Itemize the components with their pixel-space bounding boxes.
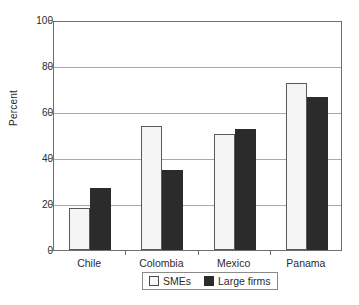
chart-legend: SMEsLarge firms — [142, 272, 278, 290]
y-axis-tick-label: 80 — [7, 60, 53, 73]
bar-chart-figure: Percent 100806040200 ChileColombiaMexico… — [0, 0, 359, 305]
legend-swatch-icon — [149, 276, 159, 286]
gridline-80 — [54, 67, 341, 68]
y-axis-tick-label: 60 — [7, 106, 53, 119]
bar-mexico-large — [235, 129, 256, 250]
bar-chile-smes — [69, 208, 90, 250]
y-axis-tick-label: 40 — [7, 152, 53, 165]
y-axis-tick-label: 100 — [7, 14, 53, 27]
legend-label: Large firms — [218, 275, 271, 287]
legend-swatch-icon — [204, 276, 214, 286]
legend-item-smes: SMEs — [149, 275, 191, 287]
bar-panama-large — [307, 97, 328, 250]
x-axis-tick-mark — [198, 251, 199, 255]
bar-panama-smes — [286, 83, 307, 250]
bar-mexico-smes — [214, 134, 235, 250]
x-axis-category-label: Panama — [246, 256, 359, 270]
bar-chile-large — [90, 188, 111, 250]
x-axis-tick-mark — [125, 251, 126, 255]
legend-label: SMEs — [163, 275, 191, 287]
x-axis-tick-mark — [270, 251, 271, 255]
y-axis-tick-label: 20 — [7, 198, 53, 211]
bar-colombia-smes — [141, 126, 162, 250]
bar-colombia-large — [162, 170, 183, 251]
plot-area — [53, 21, 342, 251]
legend-item-large: Large firms — [204, 275, 271, 287]
